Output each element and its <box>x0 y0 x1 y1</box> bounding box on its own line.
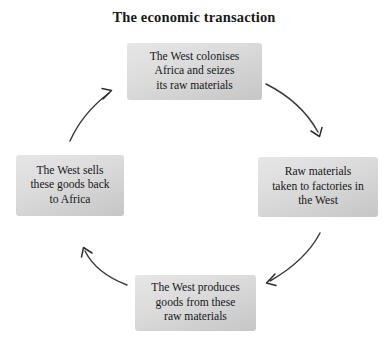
node-box-left[interactable]: The West sells these goods back to Afric… <box>16 155 124 216</box>
node-box-bottom[interactable]: The West produces goods from these raw m… <box>135 275 256 331</box>
curved-arrow-icon <box>270 233 320 281</box>
arrowhead-icon <box>311 128 322 137</box>
node-label-right: Raw materials taken to factories in the … <box>272 165 364 209</box>
arrow-left-to-top <box>70 89 112 142</box>
arrow-bottom-to-left <box>82 248 128 286</box>
diagram-canvas: The economic transaction The West coloni… <box>0 0 388 354</box>
arrowhead-icon <box>102 89 112 100</box>
curved-arrow-icon <box>85 251 127 285</box>
node-box-right[interactable]: Raw materials taken to factories in the … <box>258 157 378 217</box>
curved-arrow-icon <box>70 93 109 141</box>
node-label-top: The West colonises Africa and seizes its… <box>150 50 240 94</box>
arrowhead-icon <box>267 274 277 286</box>
node-label-left: The West sells these goods back to Afric… <box>30 164 109 208</box>
arrow-right-to-bottom <box>267 233 321 286</box>
page-title: The economic transaction <box>0 9 388 26</box>
node-box-top[interactable]: The West colonises Africa and seizes its… <box>127 43 262 100</box>
arrowhead-icon <box>82 248 93 258</box>
curved-arrow-icon <box>266 84 318 132</box>
arrow-top-to-right <box>266 84 322 137</box>
node-label-bottom: The West produces goods from these raw m… <box>151 281 239 325</box>
